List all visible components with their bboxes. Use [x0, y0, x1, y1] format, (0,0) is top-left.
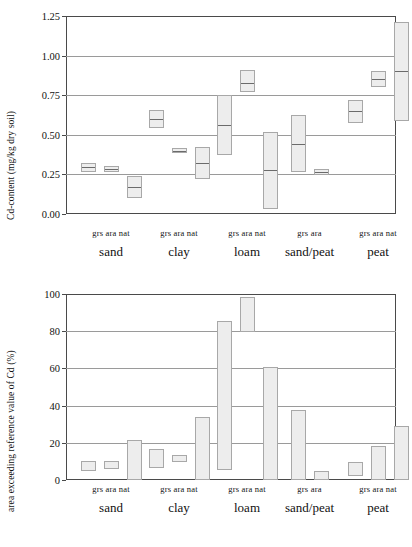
median-line [372, 79, 385, 80]
y-tick-label: 0.50 [42, 129, 60, 140]
range-bar [371, 446, 386, 480]
range-bar [263, 367, 278, 480]
y-tick-mark [62, 443, 66, 444]
median-line [264, 170, 277, 171]
median-line [395, 71, 408, 72]
range-bar [149, 449, 164, 468]
x-group-peat: grs ara natpeat [323, 228, 412, 260]
panel-a: Cd-content (mg/kg dry soil) A 0.000.250.… [0, 0, 412, 280]
y-tick-label: 1.25 [42, 11, 60, 22]
y-tick-label: 60 [50, 363, 61, 374]
y-tick-mark [62, 406, 66, 407]
range-bar [291, 410, 306, 480]
range-bar [81, 461, 96, 470]
range-bar [314, 471, 329, 480]
y-tick-mark [62, 480, 66, 481]
range-bar [348, 462, 363, 476]
y-tick-mark [62, 16, 66, 17]
box-marker [217, 95, 232, 154]
y-tick-label: 80 [50, 326, 61, 337]
box-marker [149, 110, 164, 127]
box-marker [314, 169, 329, 175]
range-bar [217, 321, 232, 470]
range-bar [394, 426, 409, 480]
y-tick-label: 1.00 [42, 50, 60, 61]
median-line [315, 172, 328, 173]
box-marker [263, 132, 278, 209]
range-bar [172, 455, 187, 462]
median-line [241, 83, 254, 84]
x-group-peat: grs ara natpeat [323, 484, 412, 516]
y-tick-label: 40 [50, 400, 61, 411]
box-marker [127, 176, 142, 198]
range-bar [195, 417, 210, 480]
x-group-label: peat [323, 500, 412, 516]
median-line [128, 187, 141, 188]
range-bar [240, 297, 255, 332]
median-line [82, 167, 95, 168]
panel-b-plot-area: 020406080100 [66, 294, 396, 480]
box-marker [291, 115, 306, 172]
y-tick-mark [62, 368, 66, 369]
panel-b-y-axis-label: area exceeding reference value of Cd (%) [6, 302, 16, 512]
box-marker [81, 163, 96, 173]
box-marker [104, 166, 119, 172]
median-line [218, 125, 231, 126]
median-line [173, 151, 186, 152]
gridline [66, 174, 396, 175]
box-marker [394, 22, 409, 120]
y-tick-label: 0.75 [42, 90, 60, 101]
median-line [150, 119, 163, 120]
median-line [196, 163, 209, 164]
y-tick-mark [62, 214, 66, 215]
box-marker [195, 147, 210, 179]
range-bar [104, 461, 119, 468]
x-group-label: peat [323, 244, 412, 260]
x-use-labels: grs ara nat [323, 228, 412, 238]
y-tick-mark [62, 294, 66, 295]
y-tick-label: 100 [44, 289, 60, 300]
y-tick-mark [62, 56, 66, 57]
y-tick-label: 0.25 [42, 169, 60, 180]
y-tick-mark [62, 331, 66, 332]
box-marker [172, 148, 187, 153]
panel-a-plot-area: 0.000.250.500.751.001.25 [66, 16, 396, 214]
panel-b: area exceeding reference value of Cd (%)… [0, 280, 412, 547]
y-tick-label: 0.00 [42, 209, 60, 220]
box-marker [348, 100, 363, 123]
y-tick-mark [62, 174, 66, 175]
gridline [66, 56, 396, 57]
panel-a-y-axis-label: Cd-content (mg/kg dry soil) [6, 40, 16, 220]
range-bar [127, 440, 142, 480]
y-tick-mark [62, 135, 66, 136]
box-marker [371, 71, 386, 87]
x-use-labels: grs ara nat [323, 484, 412, 494]
box-marker [240, 70, 255, 92]
y-tick-mark [62, 95, 66, 96]
median-line [292, 144, 305, 145]
median-line [349, 111, 362, 112]
y-tick-label: 20 [50, 437, 61, 448]
median-line [105, 169, 118, 170]
